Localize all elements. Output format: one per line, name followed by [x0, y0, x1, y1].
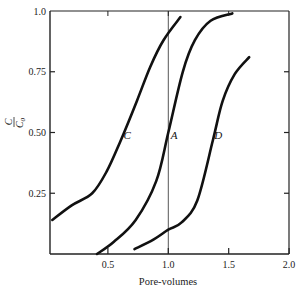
curve-a [97, 13, 232, 254]
y-tick-label: 1.0 [34, 6, 47, 17]
x-tick-label: 1.5 [222, 259, 235, 270]
breakthrough-chart: 0.51.01.52.00.250.500.751.0CAD Pore-volu… [0, 0, 302, 291]
curve-label-a: A [170, 129, 178, 141]
x-tick-label: 1.0 [162, 259, 175, 270]
y-axis-title-numerator: C [3, 118, 14, 125]
y-tick-label: 0.50 [29, 127, 47, 138]
curve-c [52, 17, 180, 220]
y-axis-title: C C0 [3, 117, 27, 128]
curve-label-d: D [213, 129, 222, 141]
y-tick-label: 0.25 [29, 188, 47, 199]
x-axis-title: Pore-volumes [139, 276, 197, 287]
x-tick-label: 2.0 [283, 259, 296, 270]
curve-d [135, 57, 250, 249]
curve-label-c: C [124, 129, 132, 141]
y-tick-label: 0.75 [29, 66, 47, 77]
x-tick-label: 0.5 [102, 259, 115, 270]
y-axis-title-denominator: C0 [14, 117, 27, 128]
